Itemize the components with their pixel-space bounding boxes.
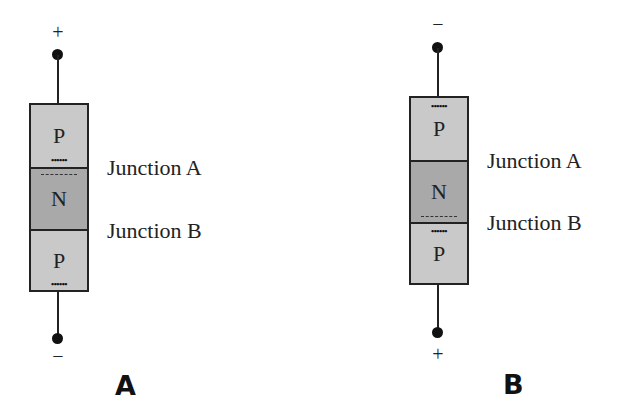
region-label: P — [53, 248, 65, 274]
n-region: N — [31, 169, 87, 229]
electrons-marker — [41, 174, 77, 177]
holes-marker: •••••• — [421, 228, 457, 234]
negative-terminal-sign: − — [428, 14, 448, 34]
holes-marker: •••••• — [41, 157, 77, 163]
junction-a-label: Junction A — [487, 148, 582, 174]
caption-b: B — [503, 369, 524, 400]
pnp-transistor-body: P •••••• N P •••••• — [409, 96, 469, 285]
bottom-lead-wire — [57, 290, 59, 336]
bottom-terminal-dot — [432, 327, 443, 338]
n-region: N — [411, 162, 467, 222]
pnp-transistor-body: P •••••• N P •••••• — [29, 103, 89, 292]
region-label: P — [53, 123, 65, 149]
holes-marker: •••••• — [421, 103, 457, 109]
electrons-marker — [421, 216, 457, 219]
holes-marker: •••••• — [41, 281, 77, 287]
negative-terminal-sign: − — [48, 346, 68, 366]
junction-a-label: Junction A — [107, 155, 202, 181]
region-label: P — [433, 241, 445, 267]
region-label: P — [433, 116, 445, 142]
bottom-terminal-dot — [52, 333, 63, 344]
caption-a: A — [115, 370, 136, 401]
top-lead-wire — [437, 48, 439, 96]
top-lead-wire — [57, 55, 59, 103]
junction-b-label: Junction B — [107, 218, 202, 244]
positive-terminal-sign: + — [48, 22, 68, 42]
positive-terminal-sign: + — [428, 344, 448, 364]
region-label: N — [51, 186, 67, 212]
bottom-lead-wire — [437, 283, 439, 328]
junction-b-label: Junction B — [487, 210, 582, 236]
region-label: N — [431, 179, 447, 205]
